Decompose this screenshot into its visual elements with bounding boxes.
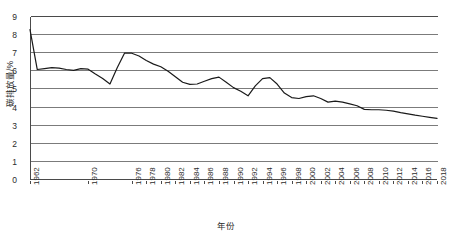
x-axis-title: 年份 bbox=[0, 219, 451, 231]
x-tick-label-1962: 1962 bbox=[33, 167, 41, 185]
x-tick-label-1992: 1992 bbox=[251, 167, 259, 185]
x-tick-label-2016: 2016 bbox=[425, 167, 433, 185]
x-tick-label-1980: 1980 bbox=[164, 167, 172, 185]
x-tick-label-2010: 2010 bbox=[382, 167, 390, 185]
y-tick-label-2: 2 bbox=[3, 140, 17, 148]
x-tick-label-2014: 2014 bbox=[411, 167, 419, 185]
x-tick-1984 bbox=[190, 181, 191, 184]
x-tick-2014 bbox=[408, 181, 409, 184]
x-tick-1962 bbox=[30, 181, 31, 184]
x-tick-1992 bbox=[248, 181, 249, 184]
x-tick-label-1990: 1990 bbox=[237, 167, 245, 185]
x-tick-label-2004: 2004 bbox=[338, 167, 346, 185]
x-tick-label-1984: 1984 bbox=[193, 167, 201, 185]
data-series-layer bbox=[30, 17, 437, 180]
y-tick-label-8: 8 bbox=[3, 31, 17, 39]
x-tick-label-2008: 2008 bbox=[367, 167, 375, 185]
y-tick-label-0: 0 bbox=[3, 176, 17, 184]
x-tick-label-1994: 1994 bbox=[266, 167, 274, 185]
x-tick-label-1996: 1996 bbox=[280, 167, 288, 185]
x-tick-1994 bbox=[263, 181, 264, 184]
x-tick-2002 bbox=[321, 181, 322, 184]
x-axis: 1962197019761978198019821984198619881990… bbox=[30, 181, 437, 215]
x-tick-2010 bbox=[379, 181, 380, 184]
x-tick-label-2018: 2018 bbox=[440, 167, 448, 185]
x-tick-1990 bbox=[234, 181, 235, 184]
x-tick-label-1976: 1976 bbox=[135, 167, 143, 185]
x-tick-label-2000: 2000 bbox=[309, 167, 317, 185]
x-tick-1980 bbox=[161, 181, 162, 184]
series-line-carbon-emission bbox=[30, 30, 437, 119]
x-tick-1970 bbox=[88, 181, 89, 184]
x-tick-label-1978: 1978 bbox=[149, 167, 157, 185]
y-tick-label-9: 9 bbox=[3, 13, 17, 21]
y-tick-label-3: 3 bbox=[3, 122, 17, 130]
y-axis-title: 碳排放量/% bbox=[3, 49, 15, 119]
x-tick-1996 bbox=[277, 181, 278, 184]
x-tick-label-1988: 1988 bbox=[222, 167, 230, 185]
x-tick-2006 bbox=[350, 181, 351, 184]
carbon-emission-line-chart: 9876543210 碳排放量/% 1962197019761978198019… bbox=[0, 0, 451, 239]
x-tick-label-1970: 1970 bbox=[91, 167, 99, 185]
x-tick-label-2006: 2006 bbox=[353, 167, 361, 185]
x-tick-1998 bbox=[292, 181, 293, 184]
x-tick-label-2012: 2012 bbox=[396, 167, 404, 185]
x-tick-label-1982: 1982 bbox=[178, 167, 186, 185]
x-tick-label-1998: 1998 bbox=[295, 167, 303, 185]
x-tick-2018 bbox=[437, 181, 438, 184]
x-tick-label-1986: 1986 bbox=[207, 167, 215, 185]
x-tick-1988 bbox=[219, 181, 220, 184]
y-tick-label-1: 1 bbox=[3, 158, 17, 166]
x-tick-1976 bbox=[132, 181, 133, 184]
x-tick-label-2002: 2002 bbox=[324, 167, 332, 185]
